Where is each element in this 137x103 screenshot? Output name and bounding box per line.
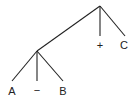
edge-root-n1 — [37, 6, 100, 51]
edge-root-c — [100, 6, 125, 36]
node-minus: − — [34, 84, 40, 96]
edge-n1-a — [12, 51, 37, 81]
node-plus: + — [97, 39, 103, 51]
edge-n1-b — [37, 51, 63, 81]
node-a: A — [8, 85, 16, 97]
node-c: C — [120, 39, 128, 51]
parse-tree-diagram: + C A − B — [0, 0, 137, 103]
node-b: B — [59, 85, 66, 97]
